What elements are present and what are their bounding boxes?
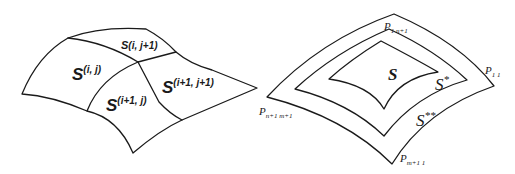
surface-patches-figure: S(i, j) S(i, j+1) S(i+1, j) S(i+1, j+1) … <box>0 0 515 174</box>
label-s-i1-j1: S(i+1, j+1) <box>162 77 215 97</box>
label-p-m1-1: Pm+1 1 <box>399 152 425 167</box>
label-s-star: S* <box>435 73 450 94</box>
label-p-1-n1: P1 n+1 <box>383 20 408 35</box>
outer-patch-boundary <box>267 14 494 164</box>
label-p-n1-m1: Pn+1 m+1 <box>258 105 293 120</box>
label-s-i-j1: S(i, j+1) <box>121 39 158 51</box>
label-s-i1-j: S(i+1, j) <box>106 95 147 115</box>
label-s: S <box>388 65 397 84</box>
label-s-2star: S** <box>416 109 436 130</box>
label-s-i-j: S(i, j) <box>72 64 102 84</box>
left-subdivided-surface: S(i, j) S(i, j+1) S(i+1, j) S(i+1, j+1) <box>22 28 257 153</box>
left-col-divider-right <box>138 62 182 120</box>
right-nested-surfaces: S S* S** P1 n+1 P1 1 Pn+1 m+1 Pm+1 1 <box>258 14 500 167</box>
